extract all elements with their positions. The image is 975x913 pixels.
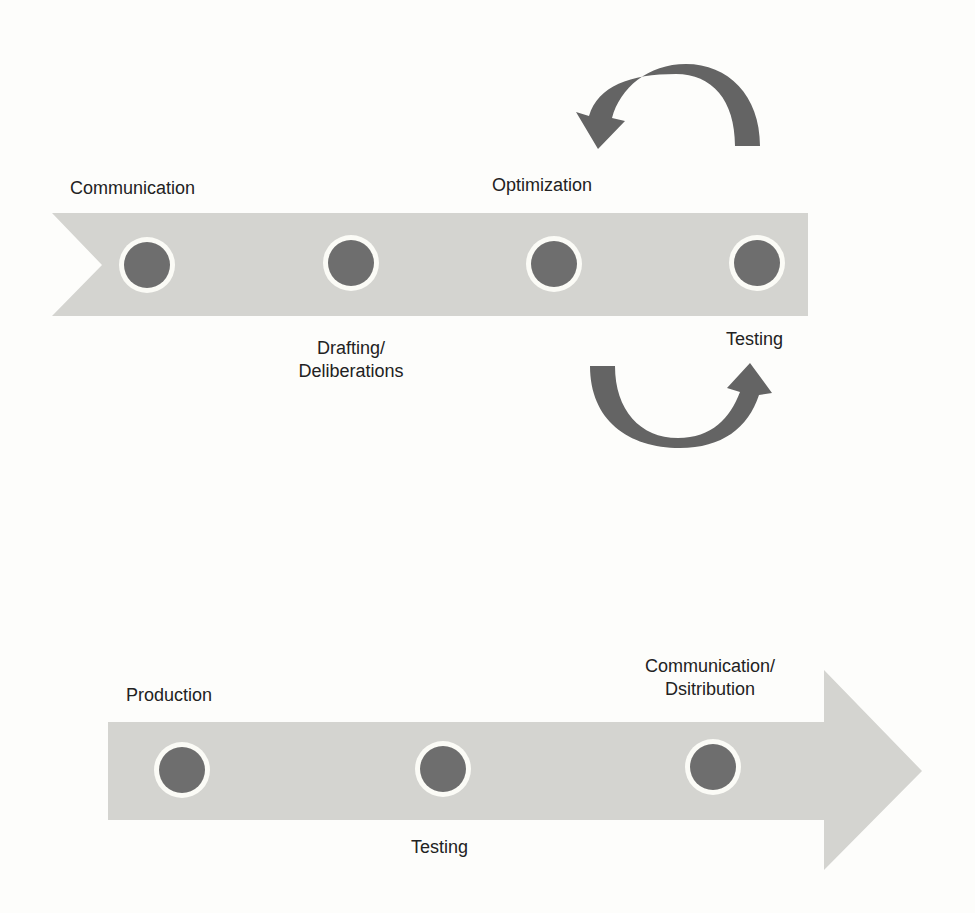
top-node-optimization: [526, 236, 582, 292]
label-optimization: Optimization: [492, 174, 592, 197]
label-communication-distribution: Communication/ Dsitribution: [620, 655, 800, 701]
top-node-drafting: [323, 235, 379, 291]
bottom-node-testing: [415, 741, 471, 797]
process-diagram: [0, 0, 975, 913]
bottom-node-communication-distribution: [685, 739, 741, 795]
curved-arrow-top-icon: [576, 64, 760, 149]
label-communication: Communication: [70, 177, 195, 200]
curved-arrow-bottom-icon: [590, 363, 772, 448]
label-testing-top: Testing: [726, 328, 783, 351]
label-drafting-deliberations: Drafting/ Deliberations: [290, 337, 412, 383]
top-node-communication: [119, 237, 175, 293]
bottom-node-production: [154, 742, 210, 798]
label-testing-bottom: Testing: [411, 836, 468, 859]
label-production: Production: [126, 684, 212, 707]
top-node-testing: [729, 235, 785, 291]
